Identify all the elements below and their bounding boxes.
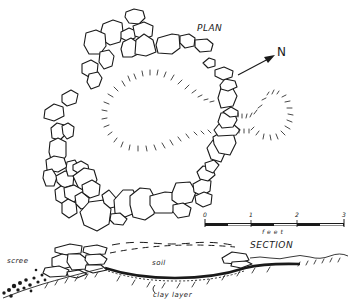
scale-tick-0: 0 [203,211,207,218]
pit-hachures [102,70,293,151]
stone-wall-ring [43,9,240,231]
scale-bar [205,219,344,227]
plan-title: PLAN [197,23,222,33]
scree-label: scree [7,257,29,265]
north-arrow-icon [238,55,275,75]
scale-tick-3: 3 [342,211,346,218]
scale-tick-2: 2 [295,211,299,218]
scree-rubble [2,269,46,298]
clay-layer-label: clay layer [153,291,192,299]
section-title: SECTION [250,240,293,250]
scale-unit-label: feet [262,228,286,235]
north-label: N [277,45,286,59]
scale-tick-1: 1 [249,211,253,218]
section-drawing [2,242,348,298]
soil-label: soil [152,259,166,267]
plan-and-section-figure [0,0,353,301]
